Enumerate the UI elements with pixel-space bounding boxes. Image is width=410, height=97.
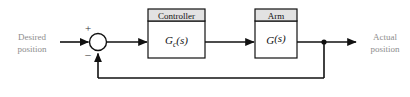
controller-tf-tail: (s)	[176, 34, 188, 47]
input-label-line2: position	[17, 44, 47, 54]
control-block-diagram: + – Desired position Actual position Con…	[0, 0, 410, 97]
controller-tf-main: G	[165, 34, 173, 46]
output-label-line1: Actual	[373, 32, 397, 42]
minus-sign-label: –	[84, 48, 91, 60]
plus-sign-label: +	[85, 22, 91, 34]
summing-junction-circle	[90, 34, 107, 51]
output-label-line2: position	[370, 44, 400, 54]
input-label-line1: Desired	[18, 32, 46, 42]
arm-tf-tail: (s)	[274, 32, 286, 45]
controller-title: Controller	[158, 11, 195, 21]
arm-tf-main: G	[266, 34, 274, 46]
arm-title: Arm	[268, 11, 285, 21]
diagram-canvas: + – Desired position Actual position Con…	[0, 0, 410, 97]
